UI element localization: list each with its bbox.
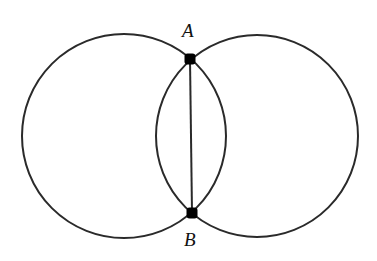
chord-ab — [190, 59, 192, 213]
point-b-marker — [187, 208, 198, 219]
point-b-label: B — [184, 230, 196, 249]
right-circle — [156, 35, 358, 237]
point-a-label: A — [182, 21, 194, 40]
point-a-marker — [185, 54, 196, 65]
left-circle — [22, 34, 226, 238]
